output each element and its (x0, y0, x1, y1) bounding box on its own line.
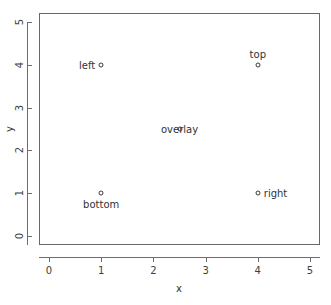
scatter-plot-figure: 012345 012345 bottomlefttoprightoverlay … (0, 0, 331, 305)
y-tick-mark (27, 236, 32, 237)
y-tick-mark (27, 108, 32, 109)
data-point-marker (255, 191, 260, 196)
x-tick-label: 4 (255, 265, 261, 276)
x-axis-title: x (176, 283, 182, 294)
y-tick-label: 3 (14, 104, 25, 110)
data-point-marker (177, 127, 182, 132)
y-tick-label: 5 (14, 19, 25, 25)
point-label: right (264, 188, 288, 199)
y-tick-mark (27, 65, 32, 66)
x-tick-label: 0 (46, 265, 52, 276)
x-tick-label: 2 (150, 265, 156, 276)
y-tick-mark (27, 150, 32, 151)
x-tick-mark (101, 257, 102, 262)
x-tick-mark (49, 257, 50, 262)
data-point-marker (255, 62, 260, 67)
data-point-marker (99, 191, 104, 196)
x-tick-mark (206, 257, 207, 262)
x-tick-mark (258, 257, 259, 262)
x-axis-line (39, 257, 320, 258)
x-tick-mark (153, 257, 154, 262)
data-point-marker (99, 62, 104, 67)
y-tick-label: 0 (14, 233, 25, 239)
y-axis-title: y (4, 126, 15, 132)
x-tick-mark (310, 257, 311, 262)
y-tick-mark (27, 22, 32, 23)
y-axis-line (27, 23, 28, 245)
point-label: bottom (83, 199, 119, 210)
x-tick-label: 5 (307, 265, 313, 276)
y-tick-label: 2 (14, 147, 25, 153)
y-tick-label: 1 (14, 190, 25, 196)
y-tick-mark (27, 193, 32, 194)
y-tick-label: 4 (14, 62, 25, 68)
x-tick-label: 3 (202, 265, 208, 276)
point-label: top (250, 49, 266, 60)
point-label: left (79, 59, 95, 70)
x-tick-label: 1 (98, 265, 104, 276)
